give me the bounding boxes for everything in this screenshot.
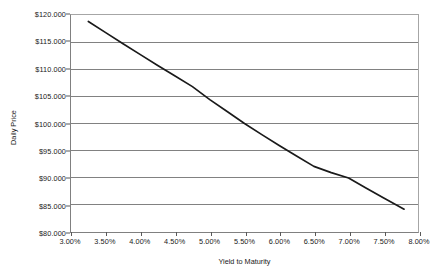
x-tick-mark: [315, 232, 316, 236]
plot-area: [70, 14, 419, 233]
x-tick-mark: [211, 232, 212, 236]
x-tick-mark: [385, 232, 386, 236]
y-tick-label: $100.000: [35, 119, 66, 128]
x-tick-mark: [176, 232, 177, 236]
x-tick-mark: [350, 232, 351, 236]
data-series-line: [71, 15, 418, 232]
x-tick-mark: [106, 232, 107, 236]
x-tick-mark: [246, 232, 247, 236]
y-axis-title: Daily Price: [9, 88, 18, 168]
y-tick-label: $105.000: [35, 92, 66, 101]
x-tick-label: 4.50%: [164, 237, 185, 246]
y-tick-label: $85.000: [39, 201, 66, 210]
bond-price-yield-chart: $120.000$115.000$110.000$105.000$100.000…: [0, 0, 439, 279]
x-tick-label: 7.00%: [339, 237, 360, 246]
x-tick-label: 3.00%: [59, 237, 80, 246]
x-tick-mark: [280, 232, 281, 236]
x-tick-label: 5.00%: [199, 237, 220, 246]
y-tick-label: $120.000: [35, 10, 66, 19]
y-tick-label: $110.000: [35, 64, 66, 73]
x-axis-labels: 3.00%3.50%4.00%4.50%5.00%5.50%6.00%6.50%…: [70, 237, 419, 251]
x-tick-label: 4.00%: [129, 237, 150, 246]
x-tick-mark: [141, 232, 142, 236]
y-tick-label: $90.000: [39, 174, 66, 183]
plot-inner: [71, 15, 418, 232]
x-axis-title: Yield to Maturity: [70, 257, 419, 266]
x-tick-mark: [420, 232, 421, 236]
x-tick-label: 5.50%: [234, 237, 255, 246]
y-axis-title-wrap: Daily Price: [4, 14, 18, 233]
y-tick-label: $115.000: [35, 37, 66, 46]
x-tick-label: 7.50%: [373, 237, 394, 246]
x-tick-label: 6.50%: [304, 237, 325, 246]
x-tick-mark: [71, 232, 72, 236]
x-tick-label: 8.00%: [408, 237, 429, 246]
x-tick-label: 3.50%: [94, 237, 115, 246]
x-tick-label: 6.00%: [269, 237, 290, 246]
y-tick-label: $95.000: [39, 146, 66, 155]
